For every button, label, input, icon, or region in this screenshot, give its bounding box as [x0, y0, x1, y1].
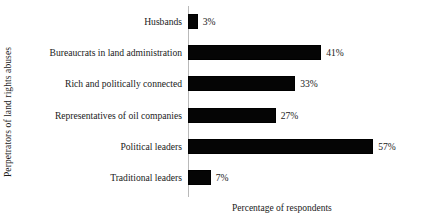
category-label: Representatives of oil companies: [2, 108, 182, 124]
bar-row: Rich and politically connected33%: [0, 76, 421, 92]
category-label: Husbands: [2, 14, 182, 30]
category-label: Bureaucrats in land administration: [2, 45, 182, 61]
bar-row: Traditional leaders7%: [0, 170, 421, 186]
bar-row: Bureaucrats in land administration41%: [0, 45, 421, 61]
bar-row: Political leaders57%: [0, 139, 421, 155]
category-label: Rich and politically connected: [2, 76, 182, 92]
bar: [188, 76, 295, 91]
bar: [188, 45, 321, 60]
category-label: Political leaders: [2, 139, 182, 155]
value-axis-line: [188, 6, 189, 197]
category-label: Traditional leaders: [2, 170, 182, 186]
plot-area: Husbands3%Bureaucrats in land administra…: [0, 0, 421, 224]
x-axis-title: Percentage of respondents: [232, 203, 332, 213]
bar-value-label: 41%: [326, 45, 344, 60]
bar-row: Representatives of oil companies27%: [0, 108, 421, 124]
bar-row: Husbands3%: [0, 14, 421, 30]
bar-value-label: 27%: [281, 108, 299, 123]
bar: [188, 14, 198, 29]
bar-value-label: 3%: [203, 14, 216, 29]
bar: [188, 108, 276, 123]
bar-value-label: 57%: [378, 139, 396, 154]
bar-value-label: 7%: [216, 170, 229, 185]
bar-chart-figure: Perpetrators of land rights abuses Husba…: [0, 0, 421, 224]
bar: [188, 139, 373, 154]
bar: [188, 170, 211, 185]
bar-value-label: 33%: [300, 76, 318, 91]
